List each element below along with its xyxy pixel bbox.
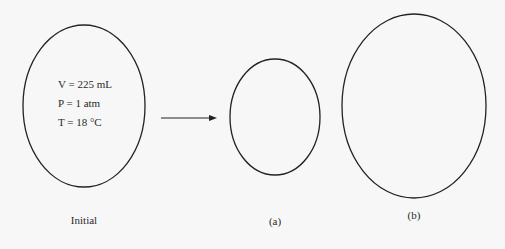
balloon-b <box>342 14 486 198</box>
label-a: (a) <box>269 215 281 227</box>
balloon-a <box>230 59 320 175</box>
temperature-text: T = 18 °C <box>58 116 102 128</box>
initial-label: Initial <box>71 214 97 226</box>
volume-text: V = 225 mL <box>58 78 112 90</box>
arrow-head-icon <box>209 115 217 121</box>
pressure-text: P = 1 atm <box>58 97 100 109</box>
label-b: (b) <box>408 209 421 221</box>
